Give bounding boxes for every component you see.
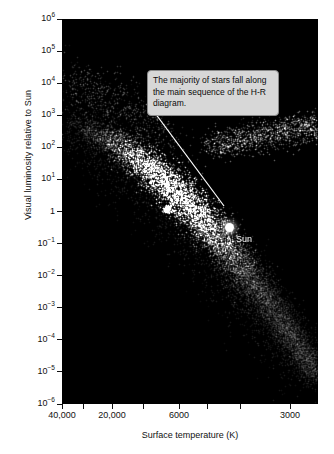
- sun-marker: [225, 223, 234, 232]
- y-axis-tick-label: 1: [50, 205, 55, 218]
- y-axis-tick-label: 101: [41, 172, 55, 185]
- y-axis-tick-mark: [57, 179, 62, 180]
- x-axis-tick-mark: [143, 404, 144, 409]
- y-axis-tick-mark: [57, 211, 62, 212]
- x-axis-tick-mark: [179, 404, 180, 409]
- x-axis-tick-label: 3000: [280, 410, 300, 420]
- y-axis-tick-mark: [57, 147, 62, 148]
- x-axis-tick-label: 40,000: [48, 410, 76, 420]
- x-axis-tick-label: 20,000: [98, 410, 126, 420]
- x-axis-tick-mark: [207, 404, 208, 409]
- y-axis-tick-label: 10−4: [38, 333, 55, 346]
- callout-text: The majority of stars fall along the mai…: [153, 75, 266, 108]
- y-axis-tick-label: 10−2: [38, 269, 55, 282]
- y-axis-tick-label: 10−6: [38, 397, 55, 410]
- y-axis-tick-label: 10−1: [38, 237, 55, 250]
- y-axis-tick-label: 105: [41, 44, 55, 57]
- x-axis-tick-mark: [290, 404, 291, 409]
- x-axis-tick-mark: [240, 404, 241, 409]
- plot-area: Sun The majority of stars fall along the…: [62, 19, 318, 404]
- y-axis-tick-mark: [57, 83, 62, 84]
- y-axis-tick-mark: [57, 115, 62, 116]
- y-axis-tick-mark: [57, 275, 62, 276]
- x-axis-tick-label: 6000: [169, 410, 189, 420]
- y-axis-tick-label: 106: [41, 12, 55, 25]
- y-axis-tick-mark: [57, 51, 62, 52]
- y-axis-tick-label: 104: [41, 76, 55, 89]
- x-axis-tick-mark: [112, 404, 113, 409]
- main-sequence-callout: The majority of stars fall along the mai…: [147, 70, 279, 116]
- y-axis-title: Visual luminosity relative to Sun: [23, 75, 33, 235]
- y-axis-tick-mark: [57, 19, 62, 20]
- y-axis-tick-label: 103: [41, 108, 55, 121]
- y-axis-tick-mark: [57, 339, 62, 340]
- x-axis-tick-mark: [83, 404, 84, 409]
- x-axis-tick-mark: [62, 404, 63, 409]
- sun-label: Sun: [236, 234, 252, 244]
- y-axis-tick-mark: [57, 307, 62, 308]
- hr-diagram-figure: Sun The majority of stars fall along the…: [0, 0, 334, 454]
- y-axis-tick-mark: [57, 371, 62, 372]
- y-axis-tick-mark: [57, 243, 62, 244]
- y-axis-tick-label: 10−3: [38, 301, 55, 314]
- y-axis-tick-label: 10−5: [38, 365, 55, 378]
- x-axis-title: Surface temperature (K): [62, 430, 318, 440]
- y-axis-tick-label: 102: [41, 140, 55, 153]
